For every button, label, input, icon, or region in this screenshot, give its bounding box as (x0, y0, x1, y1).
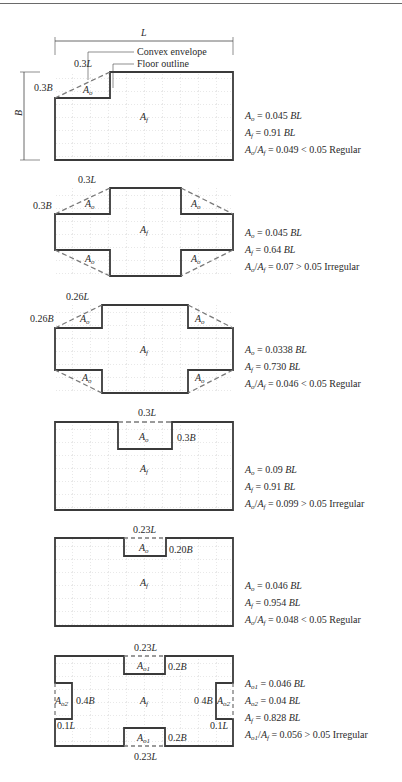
equation-Ao: Ao = 0.045 BL (245, 107, 361, 124)
dim-0.4B-right: 0 4B (194, 695, 213, 706)
dim-0.3B: 0.3B (34, 82, 53, 93)
equation-Ao: Ao = 0.0338 BL (245, 341, 361, 358)
equation-Af: Af = 0.91 BL (245, 478, 364, 495)
equations-figure-5: Ao = 0.046 BL Af = 0.954 BL Ao/Af = 0.04… (245, 577, 361, 628)
dim-0.4B-left: 0.4B (76, 695, 95, 706)
dim-0.3L: 0.3L (74, 58, 93, 69)
dim-0.23L: 0.23L (133, 524, 157, 535)
equation-Af: Af = 0.730 BL (245, 358, 361, 375)
equation-Af: Af = 0.954 BL (245, 594, 361, 611)
equations-figure-4: Ao = 0.09 BL Af = 0.91 BL Ao/Af = 0.099 … (245, 461, 364, 512)
equation-Af: Af = 0.64 BL (245, 241, 359, 258)
equation-ratio: Ao1/Af = 0.056 > 0.05 Irregular (245, 726, 368, 743)
dim-0.23L-bottom: 0.23L (134, 751, 158, 762)
dim-0.2B-top: 0.2B (168, 661, 187, 672)
dim-0.3B: 0.3B (33, 200, 52, 211)
equation-Ao: Ao = 0.09 BL (245, 461, 364, 478)
label-B: B (13, 110, 24, 116)
dim-0.3L: 0.3L (78, 174, 97, 185)
equation-ratio: Ao/Af = 0.099 > 0.05 Irregular (245, 495, 364, 512)
dim-0.23L-top: 0.23L (134, 642, 158, 653)
equations-figure-3: Ao = 0.0338 BL Af = 0.730 BL Ao/Af = 0.0… (245, 341, 361, 392)
equations-figure-2: Ao = 0.045 BL Af = 0.64 BL Ao/Af = 0.07 … (245, 224, 359, 275)
figure-3: 0.26L 0.26B Ao Ao Ao Ao Af (30, 291, 233, 393)
equation-Af: Af = 0.828 BL (245, 709, 368, 726)
dim-0.3L: 0.3L (138, 407, 157, 418)
figure-5: 0.23L 0.20B Ao Af (55, 524, 233, 626)
label-L: L (140, 27, 147, 38)
dim-0.1L-left: 0.1L (57, 720, 76, 731)
equation-ratio: Ao/Af = 0.049 < 0.05 Regular (245, 141, 361, 158)
equation-Ao: Ao = 0.046 BL (245, 577, 361, 594)
figure-1: L B Convex envelope Floor outline 0.3L 0… (13, 27, 233, 160)
equation-ratio: Ao/Af = 0.07 > 0.05 Irregular (245, 258, 359, 275)
equations-figure-6: Ao1 = 0.046 BL Ao2 = 0.04 BL Af = 0.828 … (245, 675, 368, 743)
equation-ratio: Ao/Af = 0.048 < 0.05 Regular (245, 611, 361, 628)
figure-4: 0.3L 0.3B Ao Af (55, 407, 233, 510)
equation-Ao1: Ao1 = 0.046 BL (245, 675, 368, 692)
dim-0.1L-right: 0.1L (210, 720, 229, 731)
legend-floor-outline: Floor outline (137, 58, 190, 69)
equation-Ao2: Ao2 = 0.04 BL (245, 692, 368, 709)
equation-Ao: Ao = 0.045 BL (245, 224, 359, 241)
legend-convex-envelope: Convex envelope (137, 46, 207, 57)
equation-ratio: Ao/Af = 0.046 < 0.05 Regular (245, 375, 361, 392)
figure-2: 0.3L 0.3B Ao Ao Ao Ao Af (33, 174, 233, 276)
equation-Af: Af = 0.91 BL (245, 124, 361, 141)
dim-0.20B: 0.20B (169, 544, 193, 555)
equations-figure-1: Ao = 0.045 BL Af = 0.91 BL Ao/Af = 0.049… (245, 107, 361, 158)
dim-0.3B: 0.3B (177, 432, 196, 443)
figure-6: 0.23L 0.2B Ao1 Ao2 0.4B Af 0 4B Ao2 0.1L… (54, 642, 233, 762)
dim-0.26B: 0.26B (30, 313, 54, 324)
dim-0.26L: 0.26L (66, 291, 90, 302)
dim-0.2B-bottom: 0.2B (168, 732, 187, 743)
